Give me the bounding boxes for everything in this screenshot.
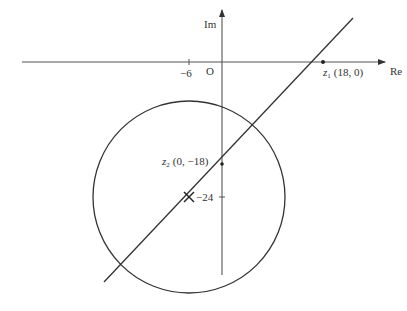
z1-point — [321, 60, 325, 64]
imag-axis-label: Im — [204, 18, 217, 30]
z2-point — [220, 162, 224, 166]
origin-label: O — [206, 65, 214, 77]
circle-center-cross-icon — [184, 192, 194, 202]
imag-tick-label: −24 — [196, 191, 214, 203]
z2-label: z2(0, −18) — [161, 155, 209, 169]
locus-line — [104, 18, 353, 282]
argand-diagram: Im Re O −6 −24 z1(18, 0) z2(0, −18) — [0, 0, 407, 311]
z1-label: z1(18, 0) — [322, 66, 363, 80]
real-axis-label: Re — [390, 65, 402, 77]
real-tick-label: −6 — [180, 67, 192, 79]
